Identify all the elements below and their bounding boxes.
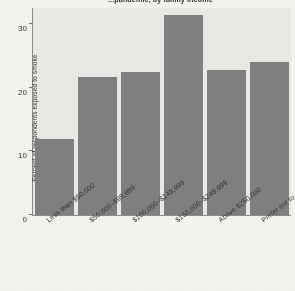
y-axis-tick — [29, 150, 33, 151]
bar-chart-figure: ...pandemic, by family income Percent of… — [0, 0, 295, 291]
x-axis-line — [32, 215, 291, 216]
x-axis-labels: Less than $50,000$50,000–$99,999$100,000… — [0, 0, 295, 76]
y-axis-tick — [29, 87, 33, 88]
